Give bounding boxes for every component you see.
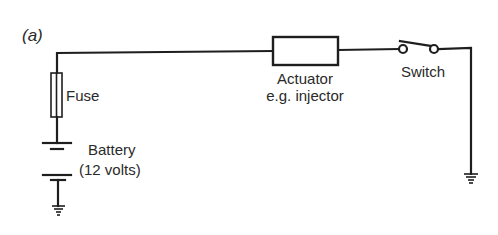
circuit-diagram: (a) Fuse Battery (12 volts) Actuator e.g… <box>0 0 498 235</box>
fuse-icon <box>51 73 62 117</box>
ground-icon-right <box>464 174 478 183</box>
actuator-label-line1: Actuator <box>277 70 333 87</box>
fuse-label: Fuse <box>66 87 99 104</box>
ground-icon-left <box>52 206 65 215</box>
switch-icon <box>399 41 438 53</box>
battery-icon <box>43 143 71 180</box>
actuator-label-line2: e.g. injector <box>266 87 344 104</box>
actuator-icon <box>273 37 338 65</box>
figure-label: (a) <box>22 26 43 45</box>
battery-label-line1: Battery <box>88 141 136 158</box>
switch-label: Switch <box>401 63 445 80</box>
battery-label-line2: (12 volts) <box>79 161 141 178</box>
